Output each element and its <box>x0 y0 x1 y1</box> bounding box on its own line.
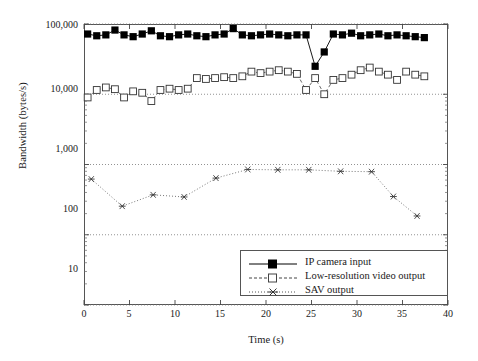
x-tick-label: 5 <box>109 308 149 319</box>
x-tick-label: 20 <box>246 308 286 319</box>
y-axis-label: Bandwidth (bytes/s) <box>17 36 28 216</box>
legend-label: Low-resolution video output <box>305 270 425 281</box>
series-0 <box>84 25 428 70</box>
chart-canvas <box>0 0 478 361</box>
x-tick-label: 10 <box>155 308 195 319</box>
x-tick-label: 15 <box>200 308 240 319</box>
legend-key-asterisk-icon <box>247 284 299 296</box>
legend-label: SAV output <box>305 284 354 295</box>
x-axis-label: Time (s) <box>84 334 448 345</box>
x-tick-label: 0 <box>64 308 104 319</box>
series-2 <box>88 167 421 219</box>
legend-item-sav-output: SAV output <box>247 283 441 296</box>
legend-key-filled-square-icon <box>247 256 299 268</box>
chart-legend: IP camera input Low-resolution video out… <box>240 250 448 296</box>
x-tick-label: 35 <box>382 308 422 319</box>
x-tick-label: 25 <box>291 308 331 319</box>
chart-figure: 100,000 10,000 1,000 100 10 0 5 10 15 20… <box>0 0 478 361</box>
series-1 <box>84 64 428 104</box>
legend-key-open-square-icon <box>247 270 299 282</box>
legend-item-ip-camera-input: IP camera input <box>247 255 441 268</box>
legend-item-low-resolution-video-output: Low-resolution video output <box>247 269 441 282</box>
x-tick-label: 40 <box>428 308 468 319</box>
x-tick-label: 30 <box>337 308 377 319</box>
legend-label: IP camera input <box>305 256 371 267</box>
data-series-layer <box>84 25 428 219</box>
